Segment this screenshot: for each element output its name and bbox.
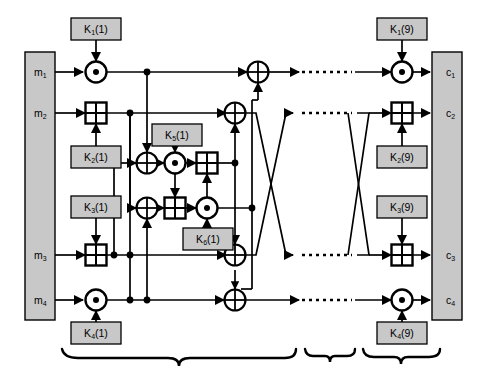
plaintext-input-block <box>25 52 55 320</box>
junction-dot <box>144 69 151 76</box>
op-xor-upper <box>137 153 158 174</box>
junction-dot <box>144 297 151 304</box>
idea-cipher-diagram <box>0 0 487 378</box>
op-add-r1-row3 <box>86 245 107 266</box>
ciphertext-output-block <box>432 52 462 320</box>
brace-gap <box>305 349 355 362</box>
junction-dot <box>232 160 239 167</box>
operator-glyphs <box>86 62 413 311</box>
bottom-braces <box>62 349 440 366</box>
op-ma-add-bot <box>165 198 186 219</box>
key-box-k3r1[interactable] <box>71 196 121 218</box>
junction-dot <box>249 205 256 212</box>
op-xor-out-row4 <box>225 290 246 311</box>
op-add-r9-row3 <box>392 245 413 266</box>
brace-round-9 <box>363 349 440 364</box>
op-xor-out-row1 <box>248 62 269 83</box>
op-xor-out-row2 <box>225 103 246 124</box>
op-mul-r1-row1 <box>86 62 107 83</box>
junction-dot <box>127 110 134 117</box>
op-ma-mul-top <box>165 153 186 174</box>
key-box-k6r1[interactable] <box>183 228 233 250</box>
diagram-canvas: m1m2m3m4c1c2c3c4 K1(1)K2(1)K3(1)K4(1)K5(… <box>0 0 487 378</box>
junction-dot <box>111 252 118 259</box>
junction-dot <box>127 252 134 259</box>
junction-dot <box>127 297 134 304</box>
brace-rounds-1-8 <box>62 349 296 366</box>
op-ma-add-top <box>197 153 218 174</box>
op-add-r1-row2 <box>86 103 107 124</box>
key-box-k2r9[interactable] <box>377 146 427 168</box>
op-mul-r9-row1 <box>392 62 413 83</box>
cross-left-upper <box>244 113 286 255</box>
key-box-k2r1[interactable] <box>71 146 121 168</box>
op-mul-r9-row4 <box>392 290 413 311</box>
op-xor-lower <box>137 198 158 219</box>
key-box-k4r1[interactable] <box>71 322 121 344</box>
op-mul-r1-row4 <box>86 290 107 311</box>
key-box-k5r1[interactable] <box>152 124 202 146</box>
cross-left-lower <box>244 113 286 255</box>
key-box-k3r9[interactable] <box>377 196 427 218</box>
key-box-k1r1[interactable] <box>71 18 121 40</box>
key-box-k1r9[interactable] <box>377 18 427 40</box>
op-ma-mul-bot <box>197 198 218 219</box>
op-add-r9-row2 <box>392 103 413 124</box>
key-box-k4r9[interactable] <box>377 322 427 344</box>
